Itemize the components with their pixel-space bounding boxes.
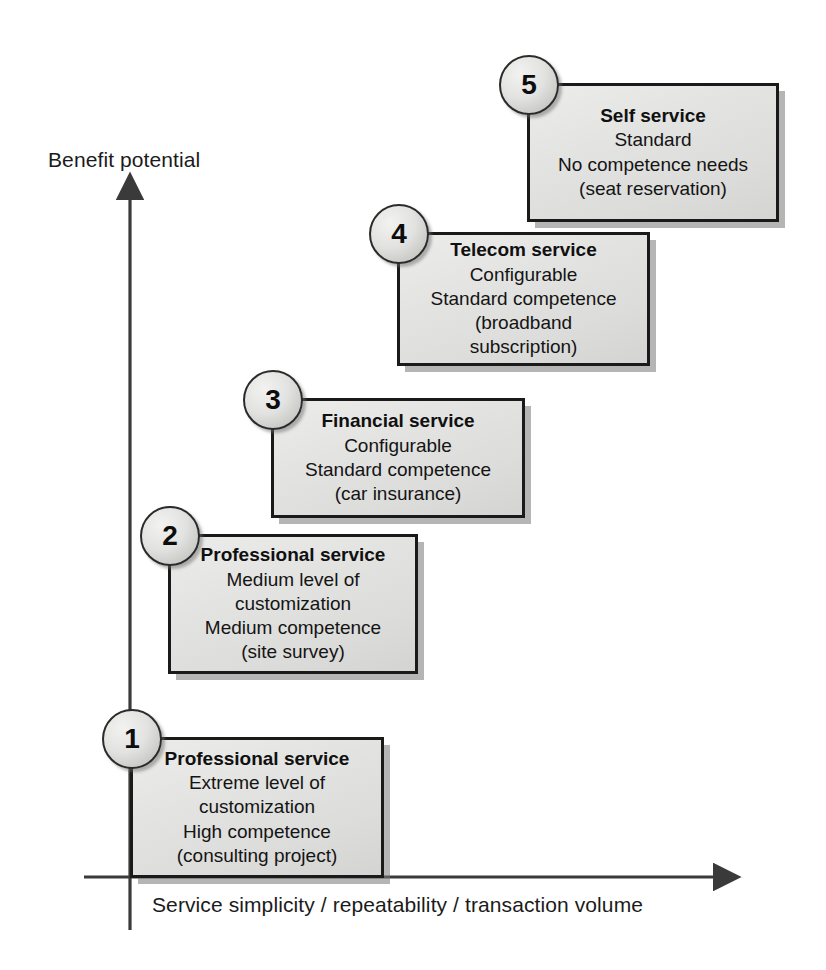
step-4-number: 4 bbox=[391, 220, 407, 248]
step-4-line-2: Standard competence bbox=[431, 287, 617, 311]
step-5-line-1: Standard bbox=[614, 128, 691, 152]
step-2-line-2: customization bbox=[235, 592, 351, 616]
step-4-line-3: (broadband bbox=[475, 311, 572, 335]
step-1-line-1: Extreme level of bbox=[189, 771, 325, 795]
step-2[interactable]: Professional service Medium level of cus… bbox=[168, 534, 418, 674]
step-2-title: Professional service bbox=[201, 543, 386, 567]
step-2-number: 2 bbox=[162, 522, 178, 550]
step-3-title: Financial service bbox=[321, 409, 474, 433]
y-axis-label: Benefit potential bbox=[48, 148, 200, 172]
step-3[interactable]: Financial service Configurable Standard … bbox=[271, 398, 525, 518]
step-1-number-badge[interactable]: 1 bbox=[102, 709, 162, 769]
step-4-number-badge[interactable]: 4 bbox=[369, 204, 429, 264]
step-1-box[interactable]: Professional service Extreme level of cu… bbox=[130, 737, 384, 878]
step-5-number-badge[interactable]: 5 bbox=[499, 55, 559, 115]
step-3-line-3: (car insurance) bbox=[335, 482, 462, 506]
step-4-line-4: subscription) bbox=[470, 335, 578, 359]
step-1-number: 1 bbox=[124, 725, 140, 753]
step-1-line-2: customization bbox=[199, 795, 315, 819]
step-2-line-1: Medium level of bbox=[226, 568, 359, 592]
step-3-box[interactable]: Financial service Configurable Standard … bbox=[271, 398, 525, 518]
step-3-line-2: Standard competence bbox=[305, 458, 491, 482]
step-2-line-3: Medium competence bbox=[205, 616, 381, 640]
step-4-box[interactable]: Telecom service Configurable Standard co… bbox=[397, 232, 650, 366]
step-5-line-2: No competence needs bbox=[558, 153, 748, 177]
step-5-number: 5 bbox=[521, 71, 537, 99]
diagram-canvas: Benefit potential Service simplicity / r… bbox=[0, 0, 826, 970]
step-2-line-4: (site survey) bbox=[241, 640, 344, 664]
step-5[interactable]: Self service Standard No competence need… bbox=[527, 83, 779, 222]
step-3-line-1: Configurable bbox=[344, 434, 452, 458]
step-5-box[interactable]: Self service Standard No competence need… bbox=[527, 83, 779, 222]
step-4-title: Telecom service bbox=[450, 238, 596, 262]
x-axis-label: Service simplicity / repeatability / tra… bbox=[152, 893, 643, 917]
step-5-line-3: (seat reservation) bbox=[579, 177, 727, 201]
step-1-line-4: (consulting project) bbox=[177, 844, 338, 868]
step-4-line-1: Configurable bbox=[470, 263, 578, 287]
step-2-box[interactable]: Professional service Medium level of cus… bbox=[168, 534, 418, 674]
step-2-number-badge[interactable]: 2 bbox=[140, 506, 200, 566]
step-4[interactable]: Telecom service Configurable Standard co… bbox=[397, 232, 650, 366]
step-3-number-badge[interactable]: 3 bbox=[243, 370, 303, 430]
step-3-number: 3 bbox=[265, 386, 281, 414]
step-1[interactable]: Professional service Extreme level of cu… bbox=[130, 737, 384, 878]
step-5-title: Self service bbox=[600, 104, 706, 128]
step-1-title: Professional service bbox=[165, 747, 350, 771]
step-1-line-3: High competence bbox=[183, 820, 331, 844]
